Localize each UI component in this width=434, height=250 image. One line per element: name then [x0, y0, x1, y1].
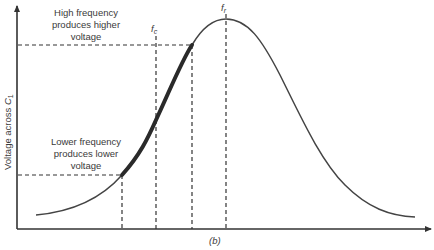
svg-text:High frequency: High frequency — [54, 7, 118, 18]
high-frequency-annotation: High frequency produces higher voltage — [52, 7, 120, 42]
y-axis-label: Voltage across C1 — [2, 94, 14, 170]
svg-text:produces lower: produces lower — [54, 148, 118, 159]
svg-text:produces higher: produces higher — [52, 19, 120, 30]
figure-caption: (b) — [209, 235, 221, 246]
resonance-diagram: fc fr High frequency produces higher vol… — [0, 0, 434, 250]
low-frequency-annotation: Lower frequency produces lower voltage — [51, 136, 121, 171]
resonance-curve — [36, 19, 415, 217]
svg-text:voltage: voltage — [71, 160, 102, 171]
fc-label: fc — [151, 23, 158, 35]
fr-label: fr — [221, 2, 227, 14]
svg-text:voltage: voltage — [71, 31, 102, 42]
operating-range-highlight — [122, 45, 192, 175]
svg-text:Lower frequency: Lower frequency — [51, 136, 121, 147]
